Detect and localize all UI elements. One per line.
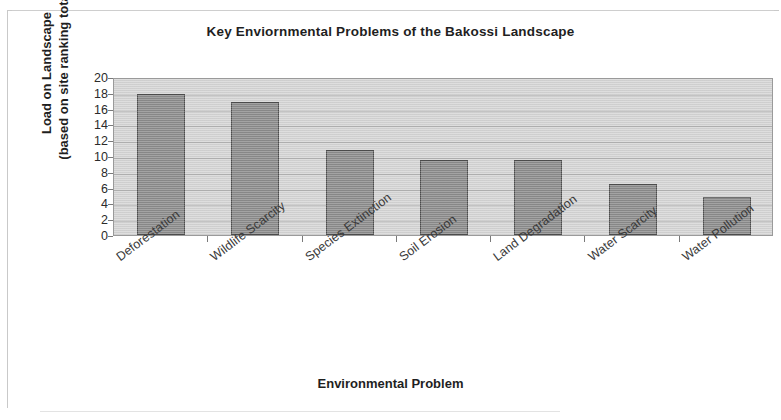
y-axis-title-line-1: Load on Landscape xyxy=(38,12,55,134)
y-axis-tick-mark xyxy=(108,204,113,205)
y-axis-tick-labels: 20181614121086420 xyxy=(80,78,108,236)
x-axis-tick-mark xyxy=(490,236,491,242)
y-axis-tick-label: 18 xyxy=(94,88,108,101)
y-axis-tick-label: 4 xyxy=(101,198,108,211)
x-axis-tick-mark xyxy=(207,236,208,242)
y-axis-tick-mark xyxy=(108,173,113,174)
y-axis-tick-label: 2 xyxy=(101,214,108,227)
plot-area xyxy=(113,78,773,236)
y-axis-tick-mark xyxy=(108,220,113,221)
y-axis-tick-mark xyxy=(108,125,113,126)
y-axis-tick-mark xyxy=(108,110,113,111)
y-axis-tick-mark xyxy=(108,94,113,95)
y-axis-tick-mark xyxy=(108,141,113,142)
gridline xyxy=(114,95,772,96)
gridline xyxy=(114,158,772,159)
x-axis-tick-mark xyxy=(302,236,303,242)
y-axis-tick-mark xyxy=(108,236,113,237)
y-axis-tick-label: 12 xyxy=(94,135,108,148)
x-axis-tick-mark xyxy=(679,236,680,242)
y-axis-tick-label: 10 xyxy=(94,151,108,164)
gridline xyxy=(114,126,772,127)
y-axis-tick-label: 8 xyxy=(101,167,108,180)
scan-artifact-line-top xyxy=(12,10,774,11)
y-axis-title-line-2: (based on site ranking total) xyxy=(55,0,72,160)
y-axis-tick-label: 6 xyxy=(101,183,108,196)
y-axis-tick-label: 0 xyxy=(101,230,108,243)
chart-title: Key Enviornmental Problems of the Bakoss… xyxy=(0,24,781,39)
y-axis-tick-mark xyxy=(108,189,113,190)
x-axis-title: Environmental Problem xyxy=(0,376,781,391)
y-axis-title: Load on Landscape (based on site ranking… xyxy=(37,0,73,188)
y-axis-tick-label: 16 xyxy=(94,104,108,117)
x-axis-tick-mark xyxy=(584,236,585,242)
gridline xyxy=(114,142,772,143)
x-axis-tick-mark xyxy=(396,236,397,242)
y-axis-tick-label: 14 xyxy=(94,119,108,132)
y-axis-tick-label: 20 xyxy=(94,72,108,85)
y-axis-tick-mark xyxy=(108,157,113,158)
scan-artifact-line-bottom xyxy=(40,411,560,412)
y-axis-tick-mark xyxy=(108,78,113,79)
gridline xyxy=(114,111,772,112)
